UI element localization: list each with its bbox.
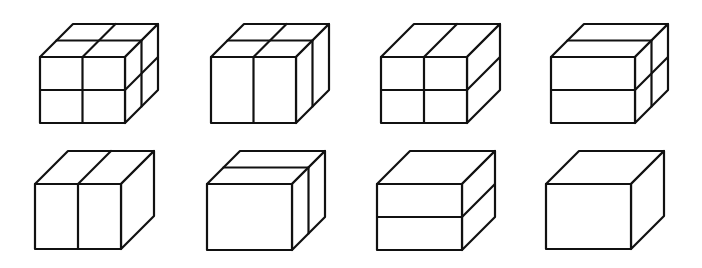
cube-5 xyxy=(35,151,154,249)
cube-6 xyxy=(207,151,325,250)
cube-division-figure xyxy=(0,0,702,268)
cube-7 xyxy=(377,151,495,250)
cube-3 xyxy=(381,24,500,123)
cube-2 xyxy=(211,24,329,123)
front-face xyxy=(546,184,631,249)
cube-8 xyxy=(546,151,664,249)
cube-1 xyxy=(40,24,158,123)
front-face xyxy=(207,184,292,250)
cube-4 xyxy=(551,24,668,123)
